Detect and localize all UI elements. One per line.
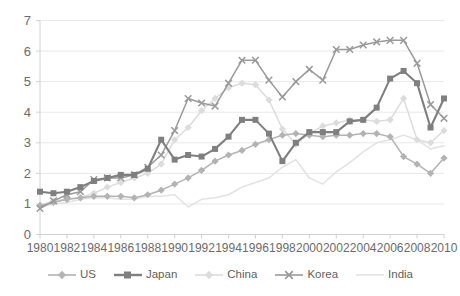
- data-point-marker: [131, 194, 138, 201]
- data-point-marker: [158, 137, 164, 143]
- y-tick-label: 5: [24, 74, 31, 89]
- data-point-marker: [401, 68, 407, 74]
- legend-marker-diamond-icon: [194, 269, 224, 281]
- data-point-marker: [306, 129, 312, 135]
- x-tick-label: 2010: [431, 241, 458, 255]
- data-point-marker: [441, 115, 448, 122]
- line-chart: 01234567 1980198219841986198819901992199…: [0, 0, 460, 296]
- series-japan: [37, 68, 447, 196]
- data-point-marker: [347, 118, 353, 124]
- data-point-marker: [158, 152, 165, 159]
- series-korea: [37, 37, 448, 212]
- data-point-marker: [252, 117, 258, 123]
- data-point-marker: [145, 166, 151, 172]
- x-tick-label: 1984: [81, 241, 108, 255]
- series-line: [40, 71, 444, 193]
- x-tick-label: 1998: [269, 241, 296, 255]
- x-tick-label: 1992: [188, 241, 215, 255]
- data-point-marker: [266, 131, 272, 137]
- data-point-marker: [225, 151, 232, 158]
- data-point-marker: [387, 116, 394, 123]
- legend-item-japan[interactable]: Japan: [113, 269, 177, 281]
- data-point-marker: [279, 158, 285, 164]
- data-point-marker: [199, 154, 205, 160]
- x-tick-label: 1994: [215, 241, 242, 255]
- data-point-marker: [306, 66, 313, 73]
- y-axis: [36, 21, 40, 235]
- y-tick-label: 4: [24, 105, 31, 120]
- data-point-marker: [320, 77, 327, 84]
- data-point-marker: [131, 172, 137, 178]
- data-point-marker: [50, 190, 56, 196]
- data-point-marker: [172, 157, 178, 163]
- data-point-marker: [360, 130, 367, 137]
- x-tick-labels: 1980198219841986198819901992199419961998…: [27, 241, 458, 255]
- x-tick-label: 2008: [404, 241, 431, 255]
- data-point-marker: [320, 129, 326, 135]
- x-tick-label: 1996: [242, 241, 269, 255]
- series-line: [40, 134, 444, 206]
- data-point-marker: [346, 132, 353, 139]
- data-point-marker: [104, 184, 111, 191]
- series-line: [40, 40, 444, 208]
- data-point-marker: [212, 146, 218, 152]
- legend-label: Japan: [146, 269, 177, 281]
- data-point-marker: [292, 130, 299, 137]
- x-tick-label: 1988: [134, 241, 161, 255]
- y-tick-label: 3: [24, 135, 31, 150]
- data-point-marker: [441, 95, 447, 101]
- data-point-marker: [333, 129, 339, 135]
- x-tick-label: 2004: [350, 241, 377, 255]
- x-tick-label: 1986: [107, 241, 134, 255]
- legend-item-china[interactable]: China: [194, 269, 257, 281]
- data-point-marker: [373, 118, 380, 125]
- data-point-marker: [158, 187, 165, 194]
- data-point-marker: [279, 94, 286, 101]
- legend-item-us[interactable]: US: [47, 269, 96, 281]
- legend-item-india[interactable]: India: [355, 269, 413, 281]
- data-point-marker: [374, 105, 380, 111]
- legend-label: India: [388, 269, 413, 281]
- data-point-marker: [400, 95, 407, 102]
- data-point-marker: [185, 174, 192, 181]
- x-axis: [40, 235, 444, 239]
- data-point-marker: [428, 125, 434, 131]
- data-point-marker: [226, 134, 232, 140]
- x-tick-label: 2002: [323, 241, 350, 255]
- data-point-marker: [185, 152, 191, 158]
- data-point-marker: [266, 77, 273, 84]
- legend-marker-cross-icon: [274, 269, 304, 281]
- x-tick-label: 1990: [161, 241, 188, 255]
- y-tick-label: 7: [24, 13, 31, 28]
- data-point-marker: [238, 80, 245, 87]
- y-tick-label: 6: [24, 44, 31, 59]
- x-tick-label: 2000: [296, 241, 323, 255]
- data-point-marker: [333, 119, 340, 126]
- chart-plot-area: 01234567 1980198219841986198819901992199…: [0, 0, 460, 296]
- y-tick-labels: 01234567: [24, 13, 31, 242]
- data-point-marker: [64, 189, 70, 195]
- data-point-marker: [77, 184, 83, 190]
- x-tick-label: 2006: [377, 241, 404, 255]
- legend-label: Korea: [307, 269, 338, 281]
- data-point-marker: [171, 127, 178, 134]
- legend-label: US: [80, 269, 96, 281]
- x-tick-label: 1982: [54, 241, 81, 255]
- data-point-marker: [239, 117, 245, 123]
- data-point-marker: [37, 189, 43, 195]
- data-point-marker: [91, 178, 97, 184]
- data-point-marker: [104, 175, 110, 181]
- legend-item-korea[interactable]: Korea: [274, 269, 338, 281]
- data-point-marker: [238, 147, 245, 154]
- legend-label: China: [227, 269, 257, 281]
- data-point-marker: [360, 117, 366, 123]
- data-point-marker: [373, 130, 380, 137]
- y-tick-label: 2: [24, 166, 31, 181]
- data-point-marker: [319, 122, 326, 129]
- legend-marker-square-icon: [113, 269, 143, 281]
- data-series-group: [36, 37, 447, 212]
- data-point-marker: [414, 80, 420, 86]
- grid-lines: [40, 21, 444, 204]
- data-point-marker: [387, 76, 393, 82]
- x-tick-label: 1980: [27, 241, 54, 255]
